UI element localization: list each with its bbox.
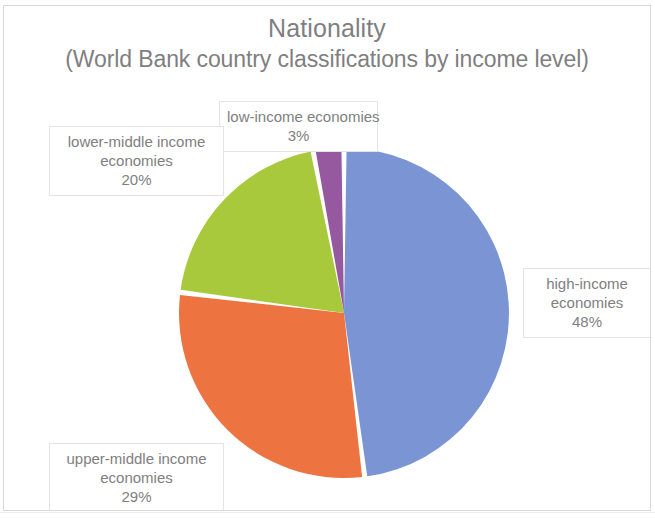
- data-label-high-income-text-line2: economies: [531, 293, 643, 312]
- data-label-high-income: high-income economies 48%: [523, 268, 651, 338]
- pie-chart-svg: [4, 6, 651, 511]
- data-label-high-income-value: 48%: [531, 312, 643, 331]
- pie-slice-0[interactable]: [344, 148, 509, 476]
- data-label-lower-middle-income-text-line1: lower-middle income: [68, 133, 206, 150]
- data-label-low-income: low-income economies 3%: [219, 101, 378, 152]
- data-label-low-income-text: low-income economies: [227, 108, 380, 125]
- data-label-low-income-value: 3%: [227, 126, 370, 145]
- page-bottom-rule: [0, 512, 655, 513]
- data-label-lower-middle-income-value: 20%: [57, 170, 216, 189]
- data-label-lower-middle-income-text-line2: economies: [57, 151, 216, 170]
- chart-container: Nationality (World Bank country classifi…: [3, 5, 651, 511]
- pie-slice-group: [179, 148, 509, 478]
- data-label-upper-middle-income: upper-middle income economies 29%: [49, 443, 224, 511]
- data-label-upper-middle-income-text-line2: economies: [57, 468, 216, 487]
- data-label-upper-middle-income-text-line1: upper-middle income: [66, 450, 206, 467]
- data-label-high-income-text-line1: high-income: [546, 275, 628, 292]
- data-label-lower-middle-income: lower-middle income economies 20%: [49, 126, 224, 196]
- pie-chart-plot-area: [4, 6, 651, 511]
- data-label-upper-middle-income-value: 29%: [57, 487, 216, 506]
